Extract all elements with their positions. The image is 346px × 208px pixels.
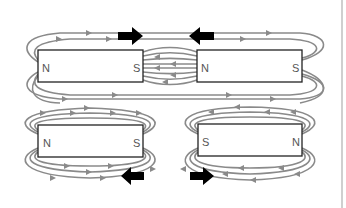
- pole-label-n: N: [43, 137, 51, 149]
- top-left-magnet: N S: [38, 50, 143, 82]
- force-arrow-left-icon: [189, 27, 214, 45]
- pole-label-n: N: [42, 62, 50, 74]
- gap-line: [143, 48, 197, 53]
- gap-line: [143, 53, 197, 56]
- gap-line: [143, 72, 197, 74]
- field-lines-canvas: N S N S: [0, 0, 346, 208]
- gap-line: [143, 76, 197, 79]
- pole-label-s: S: [133, 137, 140, 149]
- force-arrow-right-icon: [118, 27, 143, 45]
- magnet-diagram: N S N S: [0, 0, 346, 208]
- gap-line: [143, 59, 197, 61]
- pole-label-s: S: [133, 62, 140, 74]
- gap-line: [143, 80, 197, 85]
- bottom-left-magnet: N S: [38, 125, 143, 157]
- right-edge-divider: [341, 0, 343, 208]
- pole-label-s: S: [292, 62, 299, 74]
- pole-label-s: S: [202, 136, 209, 148]
- pole-label-n: N: [292, 136, 300, 148]
- top-right-magnet: N S: [197, 50, 302, 82]
- bottom-right-magnet: S N: [198, 124, 302, 156]
- pole-label-n: N: [201, 62, 209, 74]
